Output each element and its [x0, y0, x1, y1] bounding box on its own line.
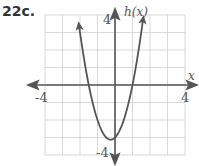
- y-tick-4: 4: [103, 12, 111, 27]
- y-axis-top-arrow-icon: [111, 9, 119, 19]
- x-axis-label: x: [188, 69, 195, 83]
- parabola-graph: -4 4 4 -4 h(x) x: [0, 0, 199, 166]
- y-axis-bottom-arrow-icon: [111, 154, 119, 164]
- x-axis-left-arrow-icon: [28, 81, 38, 89]
- y-axis-label: h(x): [124, 5, 148, 19]
- x-tick-neg4: -4: [35, 90, 48, 105]
- x-tick-4: 4: [181, 90, 189, 105]
- y-tick-neg4: -4: [96, 145, 109, 160]
- parabola-curve: [79, 20, 143, 140]
